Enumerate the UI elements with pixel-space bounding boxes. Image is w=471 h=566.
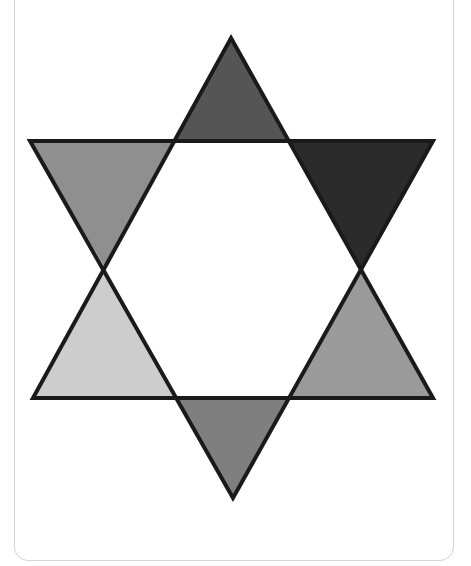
hexagram-figure <box>0 0 471 566</box>
triangle-top <box>175 38 288 141</box>
triangle-bottom <box>176 398 289 498</box>
